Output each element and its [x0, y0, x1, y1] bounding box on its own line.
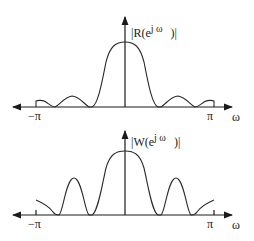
top-tick-pi: π: [207, 109, 213, 123]
bottom-tick-pi: π: [207, 217, 213, 231]
bottom-ylabel: |W(ej ω)|: [131, 132, 180, 149]
top-ylabel: |R(ej ω)|: [131, 23, 177, 40]
top-xlabel-omega: ω: [232, 110, 240, 124]
bottom-xlabel-omega: ω: [232, 218, 240, 232]
bottom-plot: |W(ej ω)| −π π ω: [13, 131, 240, 232]
top-tick-neg-pi: −π: [28, 109, 41, 123]
bottom-tick-neg-pi: −π: [28, 217, 41, 231]
top-plot: |R(ej ω)| −π π ω: [13, 17, 240, 124]
figure-canvas: |R(ej ω)| −π π ω |W(ej ω)| −π π ω: [0, 0, 254, 241]
